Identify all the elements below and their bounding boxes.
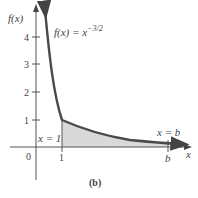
y-tick-label-1: 1 bbox=[24, 115, 29, 126]
figure-label: (b) bbox=[89, 177, 101, 189]
origin-label: 0 bbox=[26, 151, 31, 162]
function-label: f(x) = x−3/2 bbox=[54, 24, 103, 39]
y-tick-label-2: 2 bbox=[24, 87, 29, 98]
x-axis-label: x bbox=[185, 148, 191, 160]
graph: f(x) f(x) = x−3/2 4 3 2 1 x = 1 x = b 0 … bbox=[0, 0, 198, 198]
y-tick-label-3: 3 bbox=[24, 59, 29, 70]
y-tick-label-4: 4 bbox=[24, 32, 29, 43]
y-axis-label: f(x) bbox=[8, 12, 24, 25]
boundary-right-label: x = b bbox=[156, 126, 181, 138]
x-tick-label-1: 1 bbox=[59, 152, 64, 163]
x-tick-label-b: b bbox=[165, 152, 171, 164]
boundary-left-label: x = 1 bbox=[37, 132, 61, 144]
